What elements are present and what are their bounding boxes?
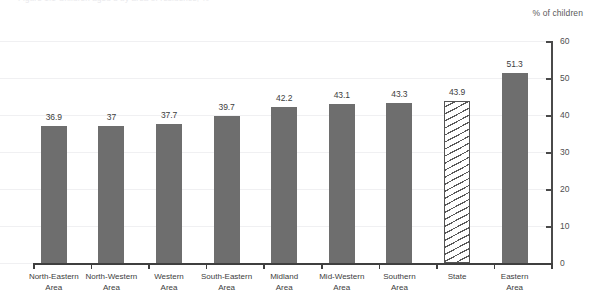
category-axis-line [33,263,552,265]
x-tick-4 [263,263,265,269]
bar-value-label-5: 43.1 [319,90,365,100]
bar-3[interactable] [214,116,240,263]
bar-value-label-6: 43.3 [376,89,422,99]
bar-8[interactable] [502,73,528,263]
bar-value-label-8: 51.3 [492,59,538,69]
bar-value-label-3: 39.7 [204,102,250,112]
bar-value-label-2: 37.7 [146,110,192,120]
bar-1[interactable] [98,126,124,263]
bar-0[interactable] [41,126,67,263]
x-tick-6 [379,263,381,269]
bar-2[interactable] [156,124,182,263]
bar-value-label-7: 43.9 [434,87,480,97]
x-axis-label-8: Eastern Area [478,272,552,293]
bar-7[interactable] [444,101,470,263]
bar-value-label-4: 42.2 [261,93,307,103]
bar-value-label-1: 37 [88,112,134,122]
bar-5[interactable] [329,104,355,263]
x-tick-2 [148,263,150,269]
bar-6[interactable] [386,103,412,263]
x-tick-3 [206,263,208,269]
bar-chart-figure: Figure 1.1 Children aged 3 by area of re… [0,0,591,298]
x-tick-7 [436,263,438,269]
bar-value-label-0: 36.9 [31,112,77,122]
bars-layer: 36.93737.739.742.243.143.343.951.3 [0,0,591,298]
x-tick-8 [494,263,496,269]
x-tick-5 [321,263,323,269]
x-tick-0 [33,263,35,269]
x-tick-1 [91,263,93,269]
x-tick-end [551,263,553,269]
bar-4[interactable] [271,107,297,263]
